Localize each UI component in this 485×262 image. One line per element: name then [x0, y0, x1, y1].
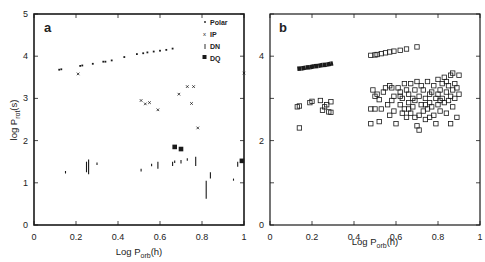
data-point — [417, 128, 421, 132]
data-point — [383, 86, 387, 90]
legend-polar-marker — [204, 21, 206, 23]
panel-a-ylabel: log Prot(s) — [8, 100, 21, 141]
data-point — [153, 51, 155, 53]
data-band — [310, 66, 314, 67]
data-point — [392, 49, 396, 53]
data-point — [394, 122, 398, 126]
data-point — [423, 103, 427, 107]
y-tick-label: 0 — [23, 220, 28, 230]
data-point — [415, 45, 419, 49]
data-point — [92, 63, 94, 65]
data-point — [377, 97, 381, 101]
data-point — [197, 127, 200, 130]
data-point — [102, 61, 104, 63]
y-tick-label: 2 — [259, 136, 264, 146]
data-point — [415, 124, 419, 128]
x-tick-label: 0 — [31, 232, 36, 242]
data-point — [318, 98, 322, 102]
data-point — [444, 111, 448, 115]
data-point — [373, 107, 377, 111]
series-upper-sequence-dense- — [297, 63, 333, 68]
data-point — [455, 86, 459, 90]
x-tick-label: 0.8 — [196, 232, 209, 242]
data-point — [438, 88, 442, 92]
data-point — [392, 94, 396, 98]
data-point — [178, 93, 181, 96]
data-point — [411, 105, 415, 109]
data-point — [383, 51, 387, 55]
legend-dn-label: DN — [210, 43, 220, 50]
y-tick-label: 1 — [23, 178, 28, 188]
data-point — [60, 68, 62, 70]
data-point — [297, 126, 301, 130]
data-point — [148, 101, 151, 104]
data-point — [423, 117, 427, 121]
y-tick-label: 4 — [23, 51, 28, 61]
data-point — [442, 100, 446, 104]
data-point — [444, 79, 448, 83]
data-point — [379, 107, 383, 111]
y-tick-label: 0 — [259, 220, 264, 230]
x-tick-label: 1 — [241, 232, 246, 242]
data-point — [385, 103, 389, 107]
legend-ip-marker: x — [203, 31, 206, 37]
x-tick-label: 1 — [477, 232, 482, 242]
data-point — [430, 105, 434, 109]
data-point — [77, 73, 80, 76]
series-dn — [66, 157, 238, 199]
x-tick-label: 0.8 — [432, 232, 445, 242]
data-point — [190, 102, 193, 105]
data-point — [404, 115, 408, 119]
data-point — [329, 100, 333, 104]
data-point — [425, 79, 429, 83]
data-point — [392, 109, 396, 113]
panel-a-label: a — [44, 20, 52, 35]
panel-a-data-points — [58, 48, 245, 199]
data-point — [398, 90, 402, 94]
data-point — [144, 103, 147, 106]
data-point — [436, 103, 440, 107]
series-lower-cloud — [295, 71, 461, 132]
x-tick-label: 0.2 — [70, 232, 83, 242]
data-point — [136, 53, 138, 55]
data-point — [406, 107, 410, 111]
data-point — [396, 86, 400, 90]
data-point — [419, 84, 423, 88]
data-point — [417, 94, 421, 98]
legend-dq-marker — [203, 55, 207, 59]
data-point — [165, 49, 167, 51]
data-point — [434, 96, 438, 100]
panel-b-data-points — [295, 45, 461, 133]
data-point — [444, 90, 448, 94]
data-point — [451, 88, 455, 92]
data-point — [413, 88, 417, 92]
data-point — [446, 84, 450, 88]
data-point — [123, 56, 125, 58]
data-point — [406, 100, 410, 104]
data-point — [398, 48, 402, 52]
data-point — [402, 107, 406, 111]
data-point — [371, 88, 375, 92]
data-point — [81, 65, 83, 67]
data-point — [438, 109, 442, 113]
data-point — [425, 107, 429, 111]
data-point — [369, 122, 373, 126]
data-point — [427, 115, 431, 119]
data-point — [388, 113, 392, 117]
data-point — [381, 90, 385, 94]
data-point — [419, 103, 423, 107]
data-point — [423, 96, 427, 100]
data-point — [192, 85, 195, 88]
legend-polar-label: Polar — [210, 19, 228, 26]
data-point — [390, 98, 394, 102]
data-point — [147, 52, 149, 54]
panel-b-chart: 00.20.40.60.81024 b Log Porb(h) — [259, 14, 483, 249]
data-point — [157, 108, 160, 111]
legend-dq-label: DQ — [210, 55, 221, 63]
series-ip — [77, 72, 246, 129]
panel-b-frame — [270, 14, 480, 225]
y-tick-label: 4 — [259, 51, 264, 61]
data-point — [105, 61, 107, 63]
data-point — [186, 85, 189, 88]
data-point — [388, 50, 392, 54]
